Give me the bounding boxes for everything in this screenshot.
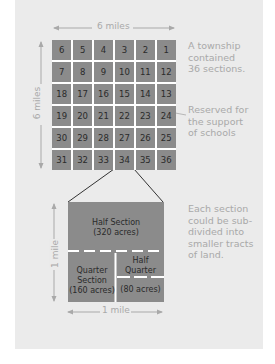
section-width-label: 1 mile <box>101 305 131 315</box>
note-line: of land. <box>188 249 253 261</box>
label-line: (320 acres) <box>68 228 164 238</box>
section-height-label: 1 mile <box>50 239 60 269</box>
note-line: could be sub- <box>188 215 253 227</box>
label-line: Quarter <box>117 266 164 276</box>
note-line: smaller tracts <box>188 238 253 250</box>
half-section-label: Half Section (320 acres) <box>68 218 164 238</box>
label-line: Section <box>66 276 118 286</box>
note-line: divided into <box>188 226 253 238</box>
label-line: Quarter <box>66 266 118 276</box>
section-note: Each section could be sub- divided into … <box>188 203 253 261</box>
half-quarter-label: Half Quarter <box>117 256 164 276</box>
section-dividers <box>0 0 275 364</box>
label-line: Half <box>117 256 164 266</box>
quarter-section-label: Quarter Section (160 acres) <box>66 266 118 296</box>
note-line: Each section <box>188 203 253 215</box>
label-line: (160 acres) <box>66 286 118 296</box>
label-line: Half Section <box>68 218 164 228</box>
half-quarter-acres-label: (80 acres) <box>117 285 164 295</box>
